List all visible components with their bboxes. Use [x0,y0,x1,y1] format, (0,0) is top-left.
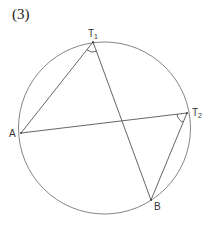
label-b: B [154,201,161,212]
segment-t1-a [21,42,93,133]
angle-mark-t1 [87,50,97,52]
point-a [20,132,22,134]
circle [19,42,191,214]
label-a: A [9,128,16,139]
point-t2 [186,112,188,114]
angle-mark-t2 [177,114,183,122]
label-t2: T2 [192,107,202,119]
segment-t2-b [151,113,187,200]
label-t1: T1 [88,28,98,40]
point-t1 [92,41,94,43]
point-b [150,199,152,201]
inscribed-angle-diagram: T1 T2 A B [0,0,211,227]
segment-a-t2 [21,113,187,133]
